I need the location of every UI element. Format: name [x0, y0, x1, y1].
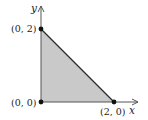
vertex-point-0-0 — [39, 100, 44, 105]
vertex-label-2-0: (2, 0) — [100, 106, 126, 117]
triangle-region-diagram: y x (0, 2) (0, 0) (2, 0) — [0, 0, 148, 120]
vertex-point-2-0 — [112, 100, 117, 105]
vertex-point-0-2 — [39, 27, 44, 32]
vertex-label-0-2: (0, 2) — [11, 23, 37, 34]
vertex-label-0-0: (0, 0) — [11, 97, 37, 108]
x-axis-label: x — [129, 104, 135, 116]
y-axis-label: y — [30, 2, 38, 14]
